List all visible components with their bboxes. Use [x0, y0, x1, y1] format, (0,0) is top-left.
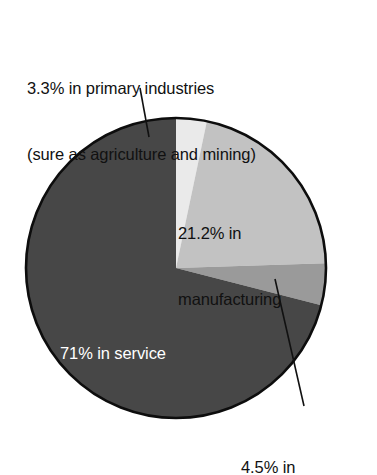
label-manufacturing-line2: manufacturing [178, 288, 281, 310]
pie-chart-figure: 3.3% in primary industries (sure as agri… [0, 0, 377, 475]
label-manufacturing: 21.2% in manufacturing [178, 178, 281, 354]
label-service-industries-line1: 71% in service [60, 342, 166, 364]
label-construction-line1: 4.5% in [241, 456, 329, 475]
label-service-industries: 71% in service industries [60, 298, 166, 474]
label-manufacturing-line1: 21.2% in [178, 222, 281, 244]
label-construction: 4.5% in construction [241, 412, 329, 475]
label-service-industries-line2: industries [60, 408, 166, 430]
label-primary-industries-line2: (sure as agriculture and mining) [27, 143, 256, 165]
label-primary-industries-line1: 3.3% in primary industries [27, 77, 256, 99]
